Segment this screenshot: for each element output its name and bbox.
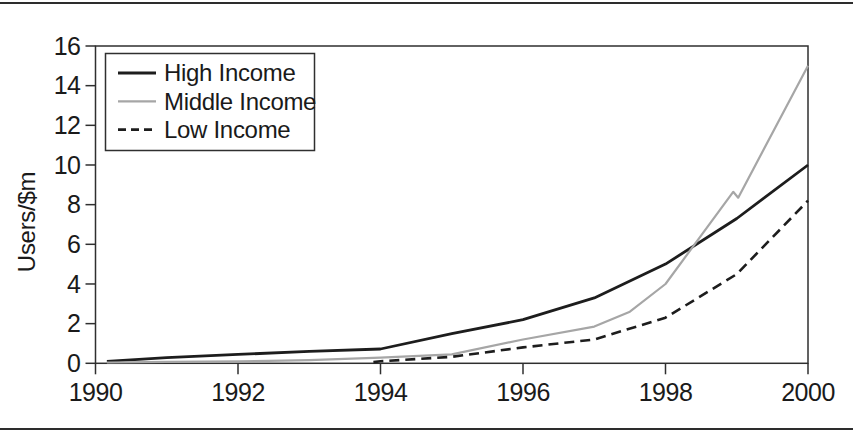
bottom-rule	[0, 428, 853, 430]
y-tick-label: 2	[67, 309, 80, 337]
x-axis-ticks: 199019921994199619982000	[69, 363, 835, 406]
y-axis-ticks: 0246810121416	[54, 32, 96, 377]
y-tick-label: 6	[67, 230, 80, 258]
y-tick-label: 8	[67, 190, 80, 218]
legend-label-middle-income: Middle Income	[164, 88, 316, 115]
x-tick-label: 2000	[781, 378, 835, 406]
x-tick-label: 1998	[639, 378, 693, 406]
y-tick-label: 16	[54, 32, 81, 60]
y-tick-label: 0	[67, 349, 80, 377]
y-tick-label: 4	[67, 270, 81, 298]
x-tick-label: 1990	[69, 378, 123, 406]
x-tick-label: 1994	[354, 378, 408, 406]
line-chart: 0246810121416 199019921994199619982000 H…	[0, 0, 853, 435]
y-tick-label: 10	[54, 151, 81, 179]
y-axis-label: Users/$m	[13, 172, 40, 272]
figure-container: 0246810121416 199019921994199619982000 H…	[0, 0, 853, 435]
legend-label-high-income: High Income	[164, 59, 295, 86]
y-tick-label: 14	[54, 71, 81, 99]
legend-label-low-income: Low Income	[164, 116, 290, 143]
legend: High IncomeMiddle IncomeLow Income	[106, 54, 317, 151]
x-tick-label: 1992	[211, 378, 265, 406]
series-low-income	[373, 201, 808, 362]
x-tick-label: 1996	[496, 378, 550, 406]
y-tick-label: 12	[54, 111, 81, 139]
series-high-income	[107, 165, 808, 361]
